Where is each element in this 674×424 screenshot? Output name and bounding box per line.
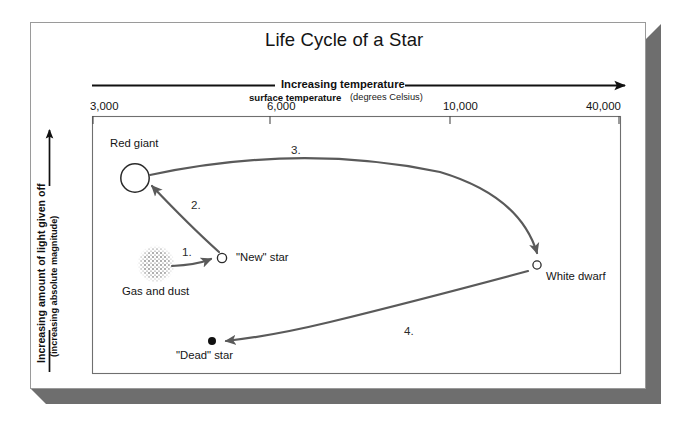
- step-4-label: 4.: [404, 325, 414, 337]
- red-giant-marker: [121, 164, 149, 192]
- plot-area-frame: [93, 117, 621, 374]
- gas-and-dust-label: Gas and dust: [122, 286, 189, 297]
- star-life-cycle-diagram: [0, 0, 674, 424]
- y-axis-sub-label: (increasing absolute magnitude): [50, 216, 59, 357]
- step-2-label: 2.: [191, 199, 201, 211]
- dead-star-label: "Dead" star: [176, 350, 233, 361]
- page-title: Life Cycle of a Star: [265, 31, 423, 50]
- x-axis-arrow-label: Increasing temperature: [281, 79, 405, 90]
- step-3-label: 3.: [291, 144, 301, 156]
- dead-star-marker: [208, 337, 216, 345]
- y-axis-label: Increasing amount of light given off: [36, 183, 47, 363]
- x-tick-10000: 10,000: [443, 101, 478, 112]
- x-tick-6000: 6,000: [267, 101, 296, 112]
- x-tick-3000: 3,000: [90, 101, 119, 112]
- new-star-marker: [217, 253, 226, 262]
- x-axis-sub-label-units: (degrees Celsius): [350, 93, 423, 102]
- white-dwarf-label: White dwarf: [546, 271, 606, 282]
- red-giant-label: Red giant: [110, 138, 158, 149]
- new-star-label: "New" star: [236, 252, 289, 263]
- gas-and-dust-marker: [137, 245, 175, 283]
- x-tick-40000: 40,000: [586, 101, 621, 112]
- step-1-label: 1.: [182, 246, 192, 258]
- white-dwarf-marker: [533, 261, 541, 269]
- figure-canvas: Life Cycle of a Star Increasing temperat…: [0, 0, 674, 424]
